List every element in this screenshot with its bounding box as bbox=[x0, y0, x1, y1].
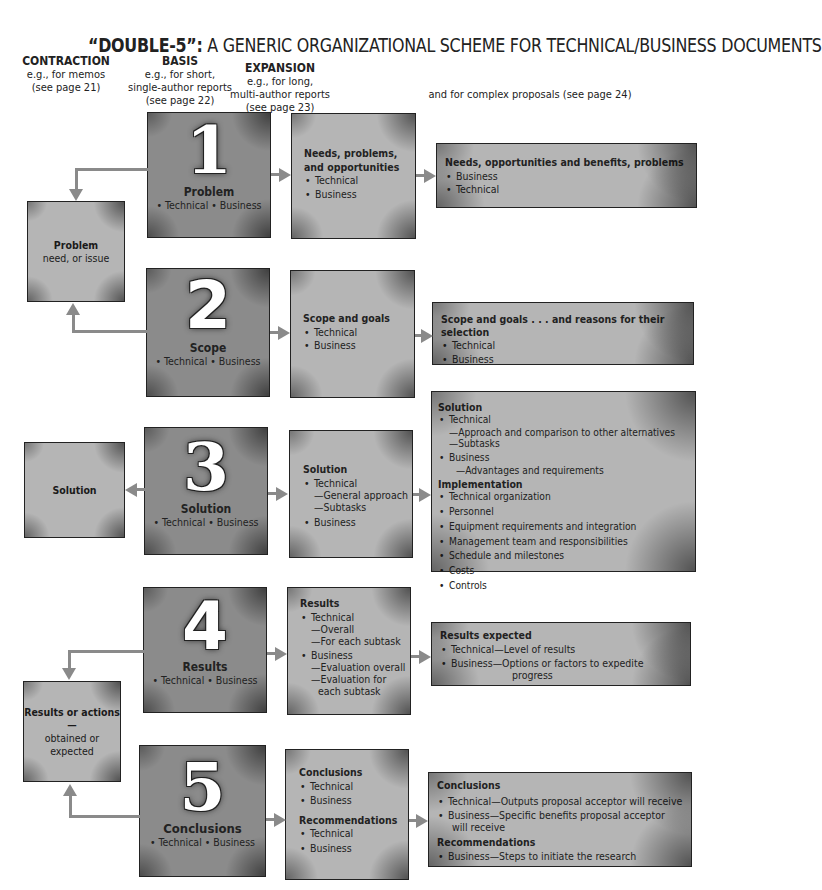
basis-box-4: 4 Results • Technical • Business bbox=[143, 587, 267, 713]
contraction-line2: (see page 21) bbox=[22, 81, 110, 94]
number-2: 2 bbox=[147, 273, 269, 339]
list-item: Technical—Level of results bbox=[440, 643, 643, 656]
arrow-right-icon bbox=[279, 168, 291, 182]
list-item: Schedule and milestones bbox=[438, 550, 675, 562]
list-item: Business—Options or factors to expedite bbox=[440, 658, 643, 669]
list-subitem: —Approach and comparison to other altern… bbox=[438, 428, 675, 438]
number-5: 5 bbox=[140, 754, 265, 820]
expansion-box-2-heading: Scope and goals bbox=[303, 312, 390, 325]
connector-line bbox=[68, 650, 144, 653]
contraction-box-solution: Solution bbox=[24, 442, 125, 538]
arrow-down-icon bbox=[69, 189, 83, 201]
expansion-line1: e.g., for long, bbox=[210, 75, 350, 88]
list-subitem: —Evaluation overall bbox=[300, 662, 405, 673]
contraction-box-problem-text: Problem need, or issue bbox=[43, 239, 110, 265]
basis-box-5: 5 Conclusions • Technical • Business bbox=[139, 745, 266, 877]
list-item: Business bbox=[445, 170, 684, 183]
list-item: Business bbox=[299, 842, 397, 855]
list-item: Technical bbox=[441, 339, 693, 352]
column-heading-expansion: EXPANSION e.g., for long, multi-author r… bbox=[210, 62, 350, 114]
basis-box-4-bullets: • Technical • Business bbox=[144, 674, 266, 686]
list-item: Technical bbox=[438, 414, 675, 426]
column-heading-contraction: CONTRACTION e.g., for memos (see page 21… bbox=[22, 55, 110, 94]
list-item: Business—Steps to initiate the research bbox=[437, 850, 682, 863]
list-subitem: will receive bbox=[437, 822, 682, 833]
expansion-box-4: Results Technical —Overall —For each sub… bbox=[287, 587, 411, 715]
list-item: Technical bbox=[303, 326, 390, 339]
contraction-results-title: Results or actions— bbox=[24, 706, 120, 732]
list-item: Business bbox=[303, 516, 408, 529]
proposal-box-3-heading2: Implementation bbox=[438, 478, 675, 490]
connector-line bbox=[136, 488, 145, 491]
proposal-box-1: Needs, opportunities and benefits, probl… bbox=[436, 143, 697, 208]
list-subitem: —Subtasks bbox=[438, 439, 675, 449]
arrow-right-icon bbox=[424, 169, 436, 183]
proposal-box-5: Conclusions Technical—Outputs proposal a… bbox=[428, 772, 692, 867]
proposal-box-3: Solution Technical —Approach and compari… bbox=[431, 391, 696, 572]
arrow-right-icon bbox=[276, 487, 288, 501]
contraction-heading: CONTRACTION bbox=[22, 55, 110, 68]
arrow-right-icon bbox=[274, 813, 286, 827]
list-item: Technical bbox=[445, 183, 684, 196]
list-item: Business bbox=[299, 794, 397, 807]
expansion-box-1: Needs, problems, and opportunities Techn… bbox=[291, 113, 416, 239]
list-item: Equipment requirements and integration bbox=[438, 521, 675, 533]
contraction-line1: e.g., for memos bbox=[22, 68, 110, 81]
basis-box-2-label: Scope bbox=[147, 341, 269, 355]
expansion-box-4-content: Results Technical —Overall —For each sub… bbox=[300, 598, 405, 698]
expansion-box-1-heading2: and opportunities bbox=[304, 161, 399, 174]
list-item: Technical organization bbox=[438, 491, 675, 503]
basis-box-5-bullets: • Technical • Business bbox=[140, 836, 265, 848]
list-subitem: each subtask bbox=[300, 686, 405, 697]
proposal-box-4-content: Results expected Technical—Level of resu… bbox=[440, 629, 643, 682]
expansion-box-3: Solution Technical —General approach —Su… bbox=[289, 430, 413, 558]
expansion-box-5-content: Conclusions Technical Business Recommend… bbox=[299, 766, 397, 855]
contraction-problem-subtitle: need, or issue bbox=[43, 252, 110, 265]
list-item: Business bbox=[303, 339, 390, 352]
number-1: 1 bbox=[148, 117, 270, 183]
list-item: Technical bbox=[299, 780, 397, 793]
contraction-box-results: Results or actions— obtained or expected bbox=[23, 681, 121, 782]
list-item: Personnel bbox=[438, 506, 675, 518]
column-heading-proposals: and for complex proposals (see page 24) bbox=[380, 88, 680, 101]
expansion-box-3-content: Solution Technical —General approach —Su… bbox=[303, 463, 408, 530]
proposal-box-2-heading: Scope and goals . . . and reasons for th… bbox=[441, 313, 693, 338]
title-text: A GENERIC ORGANIZATIONAL SCHEME FOR TECH… bbox=[203, 34, 822, 56]
connector-line bbox=[75, 168, 148, 171]
connector-line bbox=[72, 330, 147, 333]
expansion-line2: multi-author reports bbox=[210, 88, 350, 101]
number-4: 4 bbox=[144, 594, 266, 660]
arrow-right-icon bbox=[278, 326, 290, 340]
basis-box-3: 3 Solution • Technical • Business bbox=[144, 427, 268, 555]
list-item: Technical bbox=[300, 612, 405, 623]
list-subitem: —Evaluation for bbox=[300, 674, 405, 685]
expansion-box-2-content: Scope and goals Technical Business bbox=[303, 312, 390, 353]
list-subitem: —Advantages and requirements bbox=[438, 465, 675, 476]
list-item: Business—Specific benefits proposal acce… bbox=[437, 810, 682, 821]
list-item: Business bbox=[438, 452, 675, 464]
list-item: Technical—Outputs proposal acceptor will… bbox=[437, 795, 682, 808]
expansion-box-1-heading1: Needs, problems, bbox=[304, 147, 399, 160]
proposal-box-2: Scope and goals . . . and reasons for th… bbox=[432, 302, 694, 365]
list-subitem: —Overall bbox=[300, 624, 405, 635]
list-subitem: —For each subtask bbox=[300, 636, 405, 647]
proposal-box-2-content: Scope and goals . . . and reasons for th… bbox=[441, 313, 693, 366]
title-prefix: “DOUBLE-5”: bbox=[88, 34, 203, 56]
list-item: Business bbox=[441, 353, 693, 366]
proposal-box-4-heading: Results expected bbox=[440, 629, 643, 642]
arrow-right-icon bbox=[421, 329, 433, 343]
proposal-box-5-content: Conclusions Technical—Outputs proposal a… bbox=[437, 779, 682, 863]
list-item: Business bbox=[304, 188, 399, 201]
contraction-box-results-text: Results or actions— obtained or expected bbox=[24, 706, 120, 758]
arrow-right-icon bbox=[419, 650, 431, 664]
arrow-right-icon bbox=[275, 647, 287, 661]
diagram-title: “DOUBLE-5”: A GENERIC ORGANIZATIONAL SCH… bbox=[88, 34, 822, 56]
proposals-line1: and for complex proposals (see page 24) bbox=[380, 88, 680, 101]
list-item: Technical bbox=[303, 477, 408, 490]
contraction-results-subtitle2: expected bbox=[24, 745, 120, 758]
expansion-box-1-content: Needs, problems, and opportunities Techn… bbox=[304, 147, 399, 201]
expansion-box-4-heading: Results bbox=[300, 598, 405, 609]
connector-line bbox=[69, 815, 141, 818]
proposal-box-5-heading2: Recommendations bbox=[437, 836, 682, 849]
basis-box-5-label: Conclusions bbox=[140, 821, 265, 836]
